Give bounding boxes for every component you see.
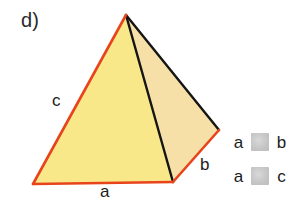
obscured-comparison-symbol-icon [251, 133, 269, 151]
legend-left-term: a [233, 168, 244, 185]
edge-label-a: a [100, 183, 110, 200]
legend-right-term: c [276, 168, 287, 185]
legend-row: a b [233, 132, 287, 152]
figure-page: d) c a b a b a c [0, 0, 303, 200]
comparison-legend: a b a c [233, 132, 287, 186]
legend-row: a c [233, 166, 287, 186]
edge-label-c: c [52, 92, 61, 109]
legend-right-term: b [276, 134, 287, 151]
item-label: d) [21, 10, 39, 30]
obscured-comparison-symbol-icon [251, 167, 269, 185]
legend-left-term: a [233, 134, 244, 151]
edge-label-b: b [200, 156, 210, 173]
